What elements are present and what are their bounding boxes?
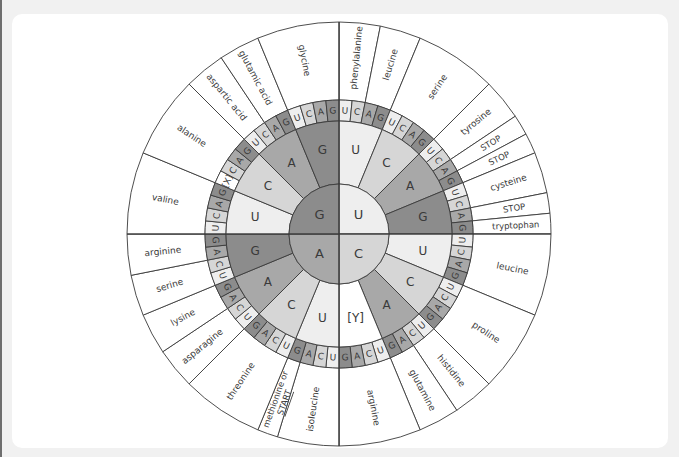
second-base-label: [Y] bbox=[347, 311, 364, 325]
second-base-label: U bbox=[251, 210, 260, 224]
second-base-label: C bbox=[406, 275, 414, 289]
second-base-label: C bbox=[264, 179, 272, 193]
second-base-label: G bbox=[250, 244, 259, 258]
codon-wheel: phenylalanineleucineserinetyrosineSTOPST… bbox=[0, 0, 679, 457]
second-base-label: U bbox=[418, 244, 427, 258]
third-base-label: G bbox=[341, 352, 348, 362]
second-base-label: A bbox=[406, 179, 415, 193]
first-base-label: A bbox=[315, 246, 324, 261]
third-base-label: U bbox=[457, 237, 467, 244]
second-base-label: C bbox=[287, 298, 295, 312]
third-base-label: U bbox=[342, 105, 349, 115]
third-base-label: G bbox=[210, 236, 220, 243]
third-base-label: U bbox=[329, 352, 336, 362]
second-base-label: A bbox=[264, 275, 273, 289]
third-base-label: U bbox=[210, 224, 220, 231]
third-base-label: G bbox=[457, 224, 467, 231]
second-base-label: U bbox=[351, 143, 360, 157]
third-base-label: G bbox=[329, 105, 336, 115]
second-base-label: G bbox=[418, 210, 427, 224]
second-base-label: A bbox=[287, 156, 296, 170]
first-base-label: C bbox=[354, 246, 363, 261]
second-base-label: G bbox=[318, 143, 327, 157]
second-base-label: U bbox=[318, 311, 327, 325]
second-base-label: C bbox=[382, 156, 390, 170]
second-base-label: A bbox=[382, 298, 391, 312]
first-base-label: G bbox=[315, 207, 325, 222]
first-base-label: U bbox=[354, 207, 364, 222]
